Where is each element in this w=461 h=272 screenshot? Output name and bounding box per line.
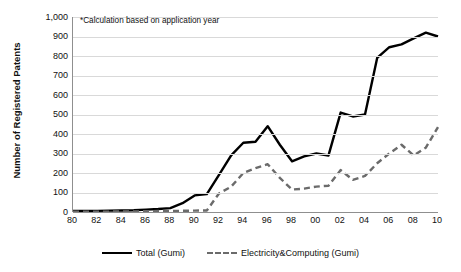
gridline	[73, 95, 438, 96]
x-tick-label: 10	[425, 215, 449, 225]
y-tick-label: 400	[32, 130, 68, 139]
x-tick-label: 06	[376, 215, 400, 225]
legend-item-electricity-computing: Electricity&Computing (Gumi)	[207, 248, 359, 258]
chart-legend: Total (Gumi) Electricity&Computing (Gumi…	[0, 243, 461, 263]
x-tick-label: 84	[109, 215, 133, 225]
legend-label-total: Total (Gumi)	[136, 248, 185, 258]
y-axis-title: Number of Registered Patents	[11, 26, 22, 196]
x-tick-label: 04	[352, 215, 376, 225]
gridline	[73, 37, 438, 38]
y-tick-label: 1,000	[32, 13, 68, 22]
gridline	[73, 134, 438, 135]
plot-area	[72, 17, 437, 212]
x-tick-label: 88	[157, 215, 181, 225]
x-tick-label: 96	[255, 215, 279, 225]
legend-swatch-solid-line-icon	[102, 252, 132, 254]
y-tick-label: 200	[32, 169, 68, 178]
chart-annotation: *Calculation based on application year	[80, 16, 219, 25]
series-line-electricity-computing	[73, 127, 438, 211]
x-tick-label: 92	[206, 215, 230, 225]
y-tick-label: 900	[32, 32, 68, 41]
x-axis-line	[73, 212, 438, 213]
legend-label-electricity-computing: Electricity&Computing (Gumi)	[241, 248, 359, 258]
x-tick-label: 02	[328, 215, 352, 225]
y-tick-label: 100	[32, 188, 68, 197]
gridline	[73, 56, 438, 57]
gridline	[73, 173, 438, 174]
x-tick-label: 80	[60, 215, 84, 225]
y-tick-label: 700	[32, 71, 68, 80]
x-tick-label: 86	[133, 215, 157, 225]
gridline	[73, 154, 438, 155]
gridline	[73, 115, 438, 116]
x-tick-label: 90	[182, 215, 206, 225]
x-tick-label: 00	[303, 215, 327, 225]
series-line-total	[73, 33, 438, 211]
gridline	[73, 193, 438, 194]
gridline	[73, 76, 438, 77]
x-axis-tick-labels: 80828486889092949698000204060810	[72, 215, 437, 231]
y-tick-label: 300	[32, 149, 68, 158]
x-tick-label: 82	[84, 215, 108, 225]
legend-swatch-dashed-line-icon	[207, 252, 237, 254]
x-tick-label: 94	[230, 215, 254, 225]
y-tick-label: 600	[32, 91, 68, 100]
y-axis-tick-labels: 01002003004005006007008009001,000	[28, 0, 68, 272]
patent-line-chart: Number of Registered Patents 01002003004…	[0, 0, 461, 272]
y-tick-label: 500	[32, 110, 68, 119]
x-tick-label: 98	[279, 215, 303, 225]
legend-item-total: Total (Gumi)	[102, 248, 185, 258]
y-tick-label: 800	[32, 52, 68, 61]
x-tick-label: 08	[401, 215, 425, 225]
